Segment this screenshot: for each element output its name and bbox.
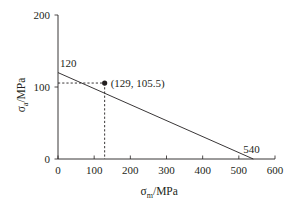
x-tick-label: 0 <box>55 164 61 176</box>
x-tick-label: 600 <box>267 164 284 176</box>
x-tick-label: 300 <box>158 164 175 176</box>
data-point <box>102 80 107 85</box>
y-tick-label: 200 <box>34 9 51 21</box>
data-point-label: (129, 105.5) <box>111 77 165 90</box>
y-axis-label: σa/MPa <box>15 78 30 113</box>
x-tick-label: 200 <box>122 164 139 176</box>
x-tick-label: 100 <box>86 164 103 176</box>
y-intercept-label: 120 <box>60 57 77 69</box>
chart: 01002003004005006000100200(129, 105.5)12… <box>0 0 295 210</box>
x-tick-label: 500 <box>231 164 248 176</box>
x-tick-label: 400 <box>194 164 211 176</box>
x-axis-label: σm/MPa <box>141 185 178 200</box>
x-intercept-label: 540 <box>243 143 260 155</box>
y-tick-label: 100 <box>34 81 51 93</box>
y-tick-label: 0 <box>45 153 51 165</box>
